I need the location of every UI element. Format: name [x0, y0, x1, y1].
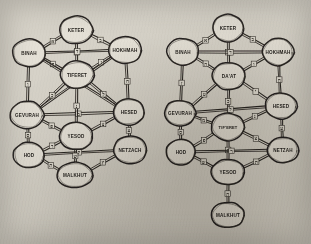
edge-label: ס: [27, 133, 30, 138]
edge-yesod-hod: ר: [42, 140, 62, 151]
node-label: HOKHMAH: [265, 50, 291, 55]
edge-tiferet-hod: פ: [193, 132, 215, 147]
edge-label: פ: [203, 138, 206, 143]
node-label: DA'AT: [222, 74, 236, 79]
tree-of-life-sketch: אבגדהוזחטיכלמנסעפצקרשתץKETERBINAHHOKHMAH…: [0, 0, 311, 244]
node-label: NETZACH: [119, 148, 143, 153]
node-label: GEVURAH: [168, 111, 193, 116]
edge-label: צ: [255, 136, 258, 141]
node-daat[interactable]: DA'AT: [212, 63, 245, 90]
node-label: BINAH: [21, 51, 37, 56]
node-hod[interactable]: HOD: [166, 139, 195, 165]
node-label: YESOD: [220, 170, 237, 175]
edge-gevurah-hod: ס: [178, 125, 183, 140]
node-hokhmah[interactable]: HOKHMAH: [109, 37, 142, 64]
edge-label: ח: [126, 79, 129, 84]
node-malkhut[interactable]: MALKHUT: [57, 162, 93, 188]
node-tiferet[interactable]: TIF'ERET: [212, 113, 245, 141]
node-yesod[interactable]: YESOD: [59, 122, 92, 149]
edge-keter-hokhmah: ב: [241, 33, 265, 48]
edge-gevurah-tiferet: מ: [194, 115, 213, 124]
edge-tiferet-yesod: נ: [74, 88, 79, 123]
edge-label: ו: [253, 62, 254, 67]
node-label: KETER: [68, 28, 85, 33]
node-binah[interactable]: BINAH: [13, 39, 46, 67]
node-label: MALKHUT: [63, 173, 87, 178]
edge-label: צ: [102, 122, 105, 127]
edge-gevurah-hod: ס: [25, 128, 30, 143]
edge-gevurah-hesed: מ: [43, 111, 115, 117]
node-label: MALKHUT: [216, 213, 240, 218]
edge-keter-hokhmah: ב: [90, 34, 111, 46]
edge-label: ע: [127, 128, 130, 133]
edge-keter-binah: א: [43, 35, 63, 48]
edge-daat-hesed: י: [242, 82, 269, 101]
node-label: NETZAH: [273, 148, 293, 153]
edge-binah-hokhmah: ד: [45, 49, 110, 55]
node-keter[interactable]: KETER: [60, 16, 94, 44]
edge-hesed-tiferet: נ: [242, 110, 267, 124]
left-tree-diagram: אבגדהוזחטיכלמנסעפצקרשתץKETERBINAHHOKHMAH…: [10, 16, 147, 188]
node-layer: KETERBINAHHOKHMAHDA'ATGEVURAHHESEDTIF'ER…: [165, 14, 300, 227]
edge-gevurah-hesed: ל: [195, 106, 267, 113]
edge-label: ע: [280, 126, 283, 131]
node-binah[interactable]: BINAH: [167, 39, 199, 66]
node-label: HOKHMAH: [112, 48, 138, 53]
node-label: HESED: [121, 110, 138, 115]
edge-label: ח: [278, 78, 281, 83]
edge-label: פ: [50, 124, 53, 129]
edge-daat-gevurah: ט: [191, 83, 217, 107]
edge-hokhmah-hesed: ח: [277, 65, 282, 94]
edge-label: ש: [73, 154, 77, 159]
edge-label: ס: [179, 130, 182, 135]
edge-yesod-malkhut: ה: [225, 184, 230, 203]
edge-netzach-yesod: ת: [242, 154, 270, 169]
node-label: KETER: [220, 26, 237, 31]
node-tiferet[interactable]: TIFERET: [60, 61, 94, 89]
edge-label: ה: [204, 62, 207, 67]
edge-keter-binah: א: [196, 33, 216, 47]
node-hesed[interactable]: HESED: [266, 93, 298, 119]
edge-tiferet-netzach: צ: [242, 131, 270, 146]
edge-label: ה: [226, 192, 229, 197]
edge-tiferet-hesed: ל: [89, 82, 117, 106]
node-gevurah[interactable]: GEVURAH: [165, 101, 197, 126]
node-hesed[interactable]: HESED: [113, 99, 144, 125]
edge-hokhmah-daat: ו: [243, 57, 266, 71]
node-label: GEVURAH: [15, 113, 40, 118]
edge-label: ץ: [102, 160, 105, 165]
edge-hod-malkhut: ת: [42, 159, 60, 171]
node-label: YESOD: [68, 134, 85, 139]
edge-hod-netzach: ק: [44, 149, 115, 155]
node-layer: KETERBINAHHOKHMAHTIFERETGEVURAHHESEDYESO…: [10, 16, 147, 188]
edge-hod-netzach: ר: [195, 148, 269, 154]
node-keter[interactable]: KETER: [213, 14, 244, 42]
node-hokhmah[interactable]: HOKHMAH: [262, 38, 294, 66]
node-netzach[interactable]: NETZACH: [113, 136, 146, 164]
edge-hesed-netzach: ע: [279, 118, 284, 138]
edge-label: ת: [255, 160, 258, 165]
edge-hod-yesod: ש: [193, 156, 214, 168]
edge-label: מ: [202, 118, 205, 123]
node-netzach[interactable]: NETZAH: [267, 137, 299, 163]
edge-label: ו: [27, 82, 28, 87]
edge-hokhmah-hesed: ח: [125, 63, 130, 100]
node-yesod[interactable]: YESOD: [211, 160, 245, 185]
node-malkhut[interactable]: MALKHUT: [211, 203, 244, 228]
node-label: TIFERET: [67, 73, 87, 78]
node-label: TIF'ERET: [219, 125, 238, 130]
edge-netzach-malkhut: ץ: [90, 154, 116, 170]
edge-binah-hokhmah: ד: [198, 50, 264, 56]
node-label: HOD: [176, 150, 187, 155]
node-label: BINAH: [175, 50, 191, 55]
edge-binah-gevurah: ז: [179, 65, 184, 101]
edge-tiferet-gevurah: כ: [39, 82, 66, 107]
edge-hokhmah-tiferet: ז: [90, 55, 111, 70]
edge-label: ת: [49, 163, 52, 168]
edge-binah-gevurah: ו: [25, 66, 30, 102]
edge-label: ט: [203, 92, 206, 97]
node-label: HOD: [24, 153, 35, 158]
edge-binah-daat: ה: [196, 57, 216, 71]
node-hod[interactable]: HOD: [13, 142, 44, 167]
sketch-page: אבגדהוזחטיכלמנסעפצקרשתץKETERBINAHHOKHMAH…: [0, 0, 311, 244]
